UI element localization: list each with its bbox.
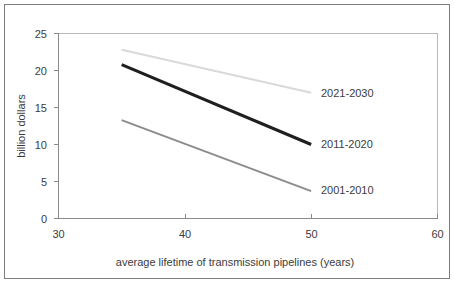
- x-tick-label-60: 60: [431, 228, 443, 240]
- y-axis-ticks: [54, 34, 59, 219]
- series-line-2011-2020: [122, 65, 312, 145]
- x-axis-tick-labels: 30 40 50 60: [52, 228, 443, 240]
- y-axis-tick-labels: 25 20 15 10 5 0: [35, 28, 47, 225]
- y-tick-label-15: 15: [35, 102, 47, 114]
- y-tick-label-20: 20: [35, 65, 47, 77]
- plot-area-border: [59, 34, 438, 219]
- x-axis-title: average lifetime of transmission pipelin…: [116, 256, 354, 268]
- chart-svg: 25 20 15 10 5 0 30 40 50 60 billion doll…: [0, 0, 454, 287]
- series-label-2021-2030: 2021-2030: [321, 87, 374, 99]
- y-axis-title: billion dollars: [15, 94, 27, 158]
- x-axis-ticks: [59, 214, 438, 219]
- y-tick-label-10: 10: [35, 139, 47, 151]
- line-chart: 25 20 15 10 5 0 30 40 50 60 billion doll…: [0, 0, 454, 287]
- chart-screenshot: 25 20 15 10 5 0 30 40 50 60 billion doll…: [0, 0, 454, 287]
- y-tick-label-5: 5: [41, 176, 47, 188]
- series-label-2001-2010: 2001-2010: [321, 184, 374, 196]
- y-tick-label-0: 0: [41, 213, 47, 225]
- series-label-2011-2020: 2011-2020: [321, 138, 373, 150]
- x-tick-label-50: 50: [305, 228, 317, 240]
- y-tick-label-25: 25: [35, 28, 47, 40]
- x-tick-label-40: 40: [179, 228, 191, 240]
- x-tick-label-30: 30: [52, 228, 64, 240]
- series-line-2001-2010: [122, 120, 312, 191]
- series-line-2021-2030: [122, 50, 312, 93]
